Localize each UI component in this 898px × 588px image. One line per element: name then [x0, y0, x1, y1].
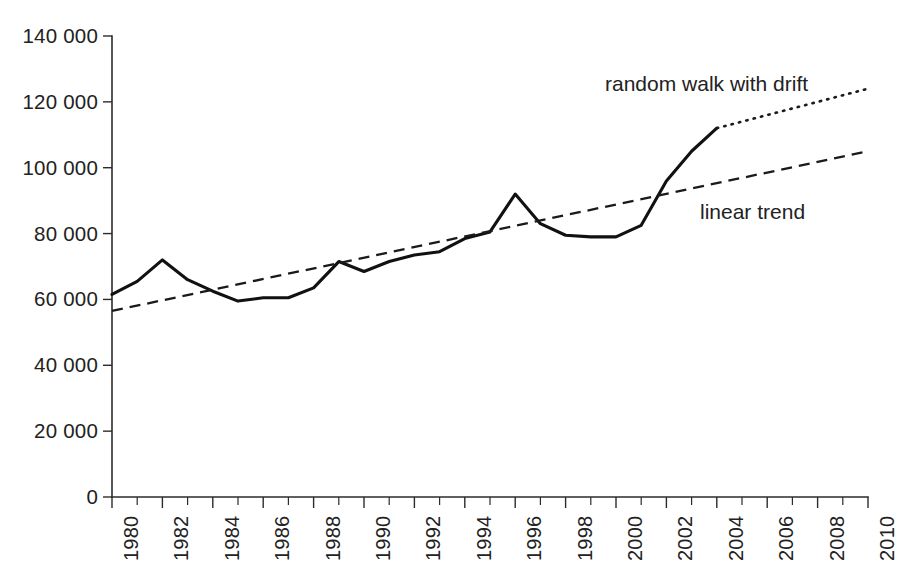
y-tick-label: 60 000 — [34, 287, 98, 311]
chart-figure: 020 00040 00060 00080 000100 000120 0001… — [0, 0, 898, 588]
y-tick-label: 0 — [86, 485, 98, 509]
x-tick-label: 1986 — [271, 516, 294, 561]
x-tick-label: 1980 — [120, 516, 143, 561]
x-tick-label: 2002 — [674, 516, 697, 561]
x-tick-label: 1996 — [523, 516, 546, 561]
x-tick-label: 2008 — [826, 516, 849, 561]
x-tick-label: 2004 — [725, 516, 748, 561]
y-tick-label: 80 000 — [34, 222, 98, 246]
series-observed-line — [112, 128, 717, 301]
y-tick-label: 40 000 — [34, 353, 98, 377]
x-tick-label: 1992 — [422, 516, 445, 561]
x-tick-label: 1982 — [170, 516, 193, 561]
y-tick-label: 20 000 — [34, 419, 98, 443]
x-tick-label: 1998 — [574, 516, 597, 561]
tick-marks — [103, 36, 868, 508]
x-tick-label: 1984 — [221, 516, 244, 561]
axes — [112, 36, 868, 497]
x-tick-label: 1988 — [322, 516, 345, 561]
y-tick-label: 120 000 — [22, 90, 98, 114]
x-tick-label: 1994 — [473, 516, 496, 561]
x-tick-label: 1990 — [372, 516, 395, 561]
x-tick-label: 2006 — [775, 516, 798, 561]
series-linear-trend-line — [112, 151, 868, 311]
y-tick-label: 100 000 — [22, 156, 98, 180]
x-tick-label: 2000 — [624, 516, 647, 561]
x-tick-label: 2010 — [876, 516, 898, 561]
linear-trend-label: linear trend — [700, 200, 805, 224]
random-walk-label: random walk with drift — [605, 72, 808, 96]
y-tick-label: 140 000 — [22, 24, 98, 48]
